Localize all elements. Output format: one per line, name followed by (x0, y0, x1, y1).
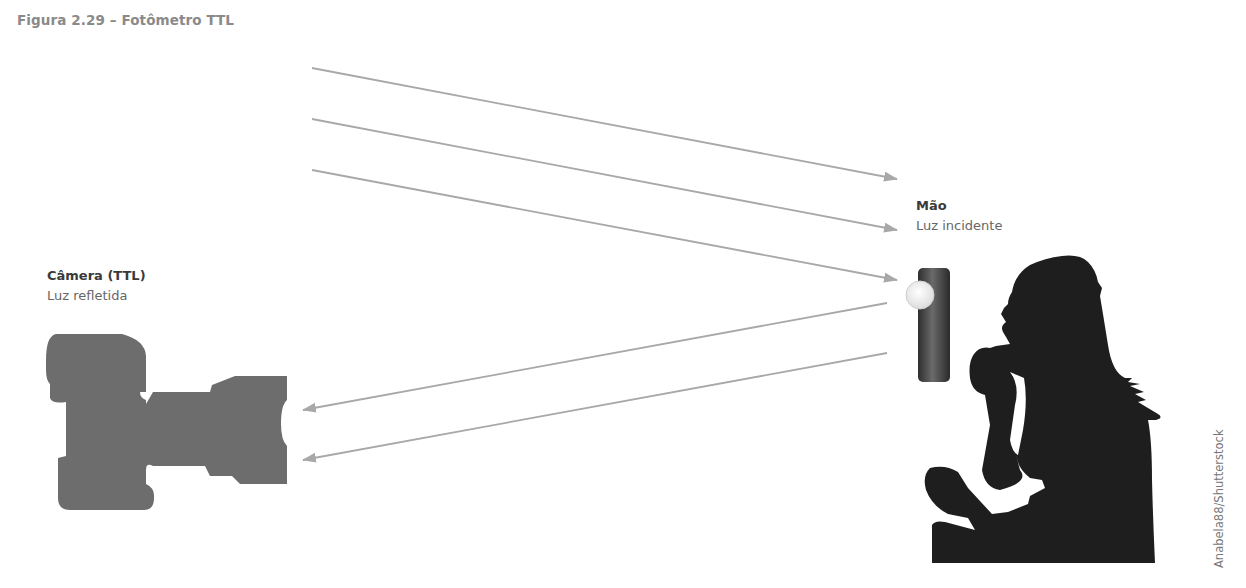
camera-label-title: Câmera (TTL) (47, 266, 146, 286)
camera-silhouette-icon (46, 334, 287, 510)
hand-label-title: Mão (916, 196, 1002, 216)
reflected-arrow-2 (303, 353, 887, 460)
hand-label: Mão Luz incidente (916, 196, 1002, 236)
reflected-arrows (303, 303, 887, 460)
incident-arrow-3 (312, 170, 897, 280)
diagram-canvas (0, 0, 1246, 588)
camera-label: Câmera (TTL) Luz refletida (47, 266, 146, 306)
woman-silhouette-icon (925, 256, 1161, 563)
camera-label-subtitle: Luz refletida (47, 286, 146, 306)
image-credit: Anabela88/Shutterstock (1212, 429, 1226, 568)
incident-arrow-2 (312, 119, 897, 230)
hand-label-subtitle: Luz incidente (916, 216, 1002, 236)
light-meter-icon (906, 268, 950, 382)
reflected-arrow-1 (303, 303, 887, 410)
incident-arrow-1 (312, 68, 897, 179)
incident-arrows (312, 68, 897, 280)
